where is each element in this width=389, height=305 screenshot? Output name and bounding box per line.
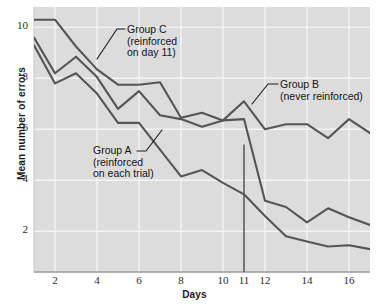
x-tick-label-6: 6 [127,274,151,286]
group-c-label-line: on day 11) [127,47,177,59]
x-tick-label-4: 4 [85,274,109,286]
x-tick-label-12: 12 [253,274,277,286]
x-tick-label-8: 8 [169,274,193,286]
group-c-label-line: Group C [127,24,177,36]
group-a-label: Group A(reinforcedon each trial) [93,145,154,180]
line-chart-canvas [0,0,389,305]
x-axis-title: Days [0,289,389,300]
y-tick-label-6: 6 [2,121,28,133]
y-tick-label-10: 10 [2,19,28,31]
group-b-label-line: (never reinforced) [280,91,363,103]
y-tick-label-8: 8 [2,70,28,82]
x-tick-label-16: 16 [337,274,361,286]
group-a-label-line: Group A [93,145,154,157]
group-a-label-line: on each trial) [93,168,154,180]
plot-area [34,7,370,272]
x-tick-label-2: 2 [43,274,67,286]
y-tick-label-2: 2 [2,223,28,235]
group-c-label: Group C(reinforcedon day 11) [127,24,177,59]
group-b-label-line: Group B [280,79,363,91]
x-tick-label-14: 14 [295,274,319,286]
group-b-label: Group B(never reinforced) [280,79,363,102]
chart-figure: Mean number of errors Days 246810 246810… [0,0,389,305]
y-tick-label-4: 4 [2,172,28,184]
